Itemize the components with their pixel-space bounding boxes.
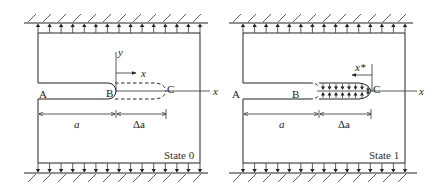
top-traction-arrows — [36, 24, 202, 34]
point-B-label: B — [292, 88, 299, 100]
bottom-wall — [24, 173, 208, 182]
point-A-label: A — [232, 88, 240, 100]
point-B-label: B — [106, 87, 113, 99]
dim-a-label: a — [279, 118, 285, 130]
y-axis-label: y — [117, 46, 123, 58]
bottom-traction-arrows — [36, 163, 202, 173]
top-traction-arrows — [241, 24, 407, 34]
bottom-wall — [229, 173, 417, 182]
state-1-label: State 1 — [369, 149, 399, 161]
panel-state-1: x* x A B C a Δa State 1 — [229, 14, 424, 182]
specimen-body — [243, 33, 417, 163]
bottom-traction-arrows — [241, 163, 407, 173]
top-wall — [24, 14, 208, 23]
state-0-label: State 0 — [164, 149, 195, 161]
dim-a-label: a — [74, 118, 80, 130]
top-wall — [229, 14, 413, 23]
dim-delta-a-label: Δa — [133, 118, 145, 130]
x-star-axis-label: x* — [354, 61, 366, 73]
crack-growth-diagram: y x x A B C a Δa State 0 — [0, 0, 445, 187]
far-x-axis-label: x — [418, 85, 424, 97]
dimension-lines — [39, 109, 166, 119]
far-x-axis-label: x — [212, 85, 218, 97]
panel-state-0: y x x A B C a Δa State 0 — [24, 14, 218, 182]
specimen-body — [38, 33, 210, 163]
point-C-label: C — [167, 83, 174, 95]
dimension-lines — [244, 109, 371, 119]
point-A-label: A — [39, 88, 47, 100]
local-x-axis-label: x — [140, 67, 146, 79]
point-C-label: C — [373, 83, 380, 95]
dim-delta-a-label: Δa — [338, 118, 350, 130]
